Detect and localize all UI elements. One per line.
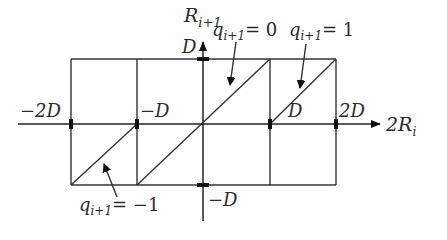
- segment-q-minus1: [71, 124, 137, 185]
- arrow-q0: [230, 42, 236, 85]
- annotation-q-1: qi+1= 1: [289, 19, 354, 43]
- tick-label-negD: −D: [140, 100, 170, 121]
- tick-label-neg2D: −2D: [20, 100, 62, 121]
- tick-label-negD-y: −D: [208, 189, 238, 210]
- arrow-q1: [300, 44, 306, 88]
- quantizer-diagram: Ri+1 2Ri −2D −D D 2D D −D qi+1= 0 qi+1= …: [0, 0, 447, 240]
- tick-label-D-x: D: [287, 100, 303, 121]
- annotation-q-0: qi+1= 0: [212, 19, 277, 43]
- tick-label-D-y: D: [181, 36, 197, 57]
- annotation-q-minus1: qi+1= −1: [79, 194, 159, 218]
- x-axis-label: 2Ri: [385, 113, 416, 139]
- tick-label-2D: 2D: [338, 100, 365, 121]
- arrow-qm1: [104, 164, 117, 197]
